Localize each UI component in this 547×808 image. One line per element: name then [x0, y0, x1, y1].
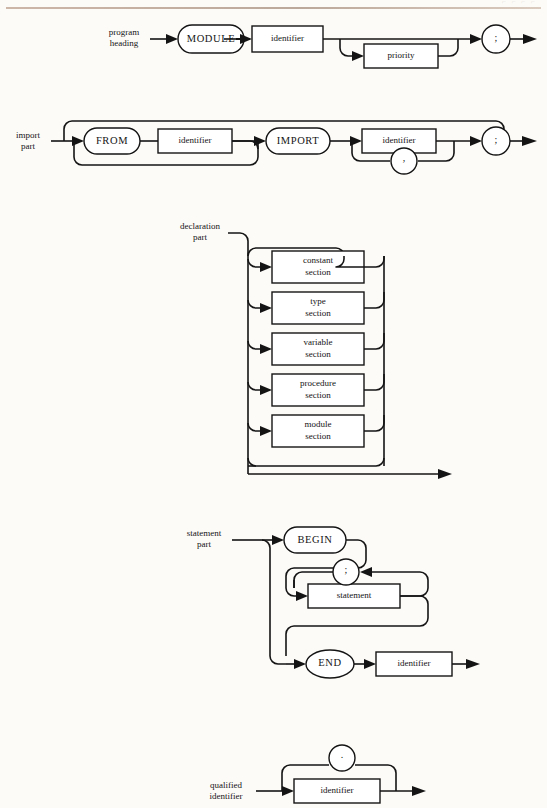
entry-label-statement-part-line2: part [197, 539, 211, 549]
arrow-exit-program-heading [523, 34, 537, 44]
terminal-comma-label: , [403, 152, 406, 163]
arrow-into-identifier-qualified [282, 786, 294, 796]
arrow-into-type-section [260, 303, 272, 313]
nonterminal-identifier-label-end: identifier [398, 658, 431, 668]
arrow-into-constant-section [260, 262, 272, 272]
arrow-into-begin [272, 535, 284, 545]
header-rule [6, 7, 541, 9]
arrow-into-end [294, 659, 306, 669]
page-canvas: ⌐ ⌐ ⌐ ⌐ program heading MODULE identifie… [0, 0, 547, 808]
nonterminal-constant-section-line2: section [305, 267, 331, 277]
terminal-from-label: FROM [96, 135, 128, 146]
diagram-import-part: import part FROM identifier IMPORT ide [0, 112, 547, 207]
entry-label-program-heading-line1: program [109, 27, 140, 37]
entry-label-statement-part-line1: statement [187, 528, 222, 538]
arrow-exit-statement-part [466, 659, 480, 669]
arrow-into-variable-section [260, 344, 272, 354]
nonterminal-constant-section-line1: constant [303, 255, 333, 265]
arrow-into-identifier-end [364, 659, 376, 669]
entry-label-declaration-part-line2: part [193, 232, 207, 242]
entry-label-program-heading-line2: heading [110, 38, 139, 48]
terminal-begin-label: BEGIN [297, 534, 332, 545]
entry-label-import-part-line1: import [16, 130, 40, 140]
diagram-statement-part: statement part BEGIN statement ; [0, 522, 547, 702]
diagram-declaration-part: declaration part constant section type s… [0, 218, 547, 493]
nonterminal-procedure-section-line2: section [305, 390, 331, 400]
arrow-into-semicolon-1 [470, 34, 482, 44]
nonterminal-procedure-section-line1: procedure [300, 378, 336, 388]
nonterminal-variable-section-line1: variable [304, 337, 333, 347]
terminal-dot-label: . [341, 749, 344, 760]
terminal-semicolon-label-loop: ; [345, 564, 348, 575]
nonterminal-identifier-label-1: identifier [271, 33, 304, 43]
arrow-exit-qualified-identifier [412, 786, 426, 796]
nonterminal-variable-section-line2: section [305, 349, 331, 359]
terminal-import-label: IMPORT [277, 135, 320, 146]
nonterminal-identifier-label-import: identifier [179, 135, 212, 145]
nonterminal-priority-label: priority [388, 50, 415, 60]
arrow-into-statement [296, 591, 308, 601]
nonterminal-type-section-line1: type [310, 296, 326, 306]
entry-label-import-part-line2: part [21, 141, 35, 151]
arrow-into-semicolon-loop [360, 567, 372, 577]
nonterminal-identifier-label-qualified: identifier [321, 785, 354, 795]
arrow-into-module-section [260, 426, 272, 436]
arrow-into-procedure-section [260, 385, 272, 395]
nonterminal-statement-label: statement [337, 590, 372, 600]
nonterminal-type-section-line2: section [305, 308, 331, 318]
entry-label-qualified-identifier-line1: qualified [210, 780, 242, 790]
terminal-semicolon-label-2: ; [495, 134, 498, 145]
nonterminal-identifier-label-list: identifier [383, 135, 416, 145]
diagram-qualified-identifier: qualified identifier identifier . [0, 728, 547, 808]
arrow-exit-import-part [522, 136, 537, 146]
arrow-into-import [254, 136, 266, 146]
arrow-into-module [166, 34, 178, 44]
arrow-into-semicolon-2 [470, 136, 482, 146]
arrow-into-identifier-1 [240, 34, 252, 44]
arrow-exit-declaration-part [438, 469, 452, 479]
faint-header-text: ⌐ ⌐ ⌐ ⌐ [502, 0, 537, 6]
entry-label-qualified-identifier-line2: identifier [210, 791, 243, 801]
nonterminal-module-section-line1: module [305, 419, 332, 429]
entry-label-declaration-part-line1: declaration [180, 221, 220, 231]
arrow-into-priority [352, 51, 364, 61]
terminal-end-label: END [318, 657, 341, 668]
diagram-program-heading: program heading MODULE identifier priori… [0, 16, 547, 96]
nonterminal-module-section-line2: section [305, 431, 331, 441]
terminal-semicolon-label-1: ; [495, 32, 498, 43]
